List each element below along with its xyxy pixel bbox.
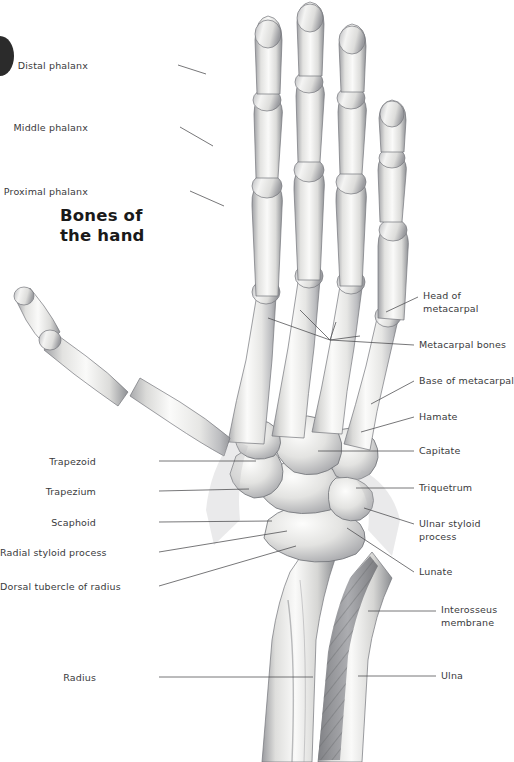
label-dorsal-tubercle-of-radius: Dorsal tubercle of radius <box>0 581 96 594</box>
label-ulnar-styloid: Ulnar styloid <box>419 518 481 531</box>
label-interosseus: Interosseus <box>441 604 497 617</box>
leader-scaphoid <box>159 521 272 522</box>
leader-dorsal-tubercle-of-radius <box>159 546 296 586</box>
label-metacarpal: metacarpal <box>423 303 479 316</box>
label-trapezoid: Trapezoid <box>0 456 96 469</box>
label-radius: Radius <box>0 672 96 685</box>
index-finger-bones <box>252 16 282 296</box>
label-process: process <box>419 531 457 544</box>
middle-finger-bones <box>294 2 324 280</box>
label-metacarpal-bones: Metacarpal bones <box>419 339 506 352</box>
leader-distal-phalanx <box>178 65 206 74</box>
ring-finger-bones <box>336 24 366 286</box>
label-middle-phalanx: Middle phalanx <box>0 122 88 135</box>
label-trapezium: Trapezium <box>0 486 96 499</box>
label-radial-styloid-process: Radial styloid process <box>0 547 96 560</box>
thumb-bones <box>14 287 128 406</box>
label-capitate: Capitate <box>419 445 460 458</box>
label-triquetrum: Triquetrum <box>419 482 472 495</box>
forearm-bones <box>262 540 392 762</box>
label-head-of: Head of <box>423 290 461 303</box>
label-proximal-phalanx: Proximal phalanx <box>0 186 88 199</box>
label-distal-phalanx: Distal phalanx <box>0 60 88 73</box>
figure-title-line2: the hand <box>60 226 200 246</box>
label-ulna: Ulna <box>441 670 463 683</box>
figure-title: Bones of the hand <box>60 206 200 246</box>
label-hamate: Hamate <box>419 411 458 424</box>
leader-proximal-phalanx <box>190 191 224 206</box>
label-lunate: Lunate <box>419 566 452 579</box>
label-scaphoid: Scaphoid <box>0 517 96 530</box>
label-membrane: membrane <box>441 617 494 630</box>
figure-title-line1: Bones of <box>60 206 200 226</box>
little-finger-bones <box>378 100 408 320</box>
leader-middle-phalanx <box>180 127 213 146</box>
label-base-of-metacarpal: Base of metacarpal <box>419 375 514 388</box>
